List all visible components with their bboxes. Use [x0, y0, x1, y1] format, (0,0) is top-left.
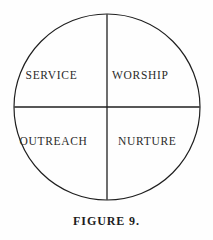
figure-container: SERVICE WORSHIP OUTREACH NURTURE FIGURE …: [0, 0, 213, 240]
quadrant-label-nurture: NURTURE: [118, 136, 202, 148]
figure-caption: FIGURE 9.: [0, 215, 213, 227]
quadrant-label-outreach: OUTREACH: [0, 136, 107, 148]
quadrant-label-service: SERVICE: [0, 70, 103, 82]
quadrant-circle-diagram: [0, 0, 213, 213]
quadrant-label-worship: WORSHIP: [112, 70, 196, 82]
diagram-svg: [0, 0, 213, 213]
